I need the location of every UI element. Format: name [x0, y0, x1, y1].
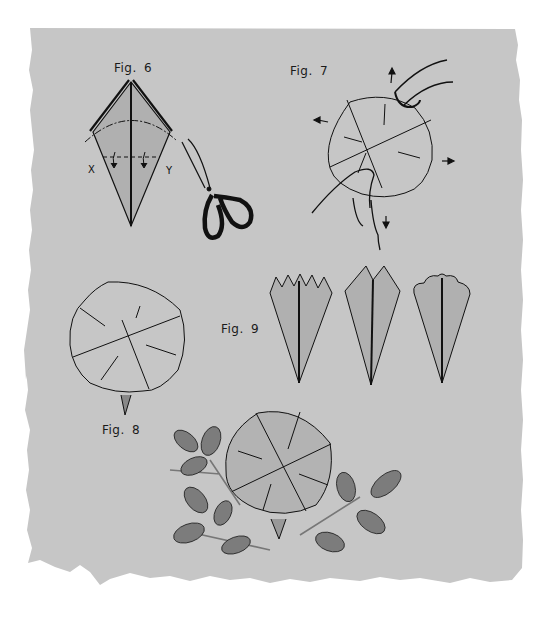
illustration-canvas: X Y: [0, 0, 544, 617]
fig6-label: Fig. 6: [114, 61, 152, 75]
document-page: X Y: [0, 0, 544, 617]
fig7-label: Fig. 7: [290, 64, 328, 78]
fig8-label: Fig. 8: [102, 423, 140, 437]
fig6-marker-y: Y: [165, 165, 173, 176]
fig9-label: Fig. 9: [221, 322, 259, 336]
fig6-marker-x: X: [88, 164, 95, 175]
